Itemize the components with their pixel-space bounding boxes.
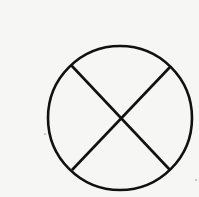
diagram-canvas — [0, 0, 199, 197]
circle-x-diagram — [0, 0, 199, 197]
paper-speck — [44, 133, 46, 135]
paper-speck — [195, 179, 197, 181]
